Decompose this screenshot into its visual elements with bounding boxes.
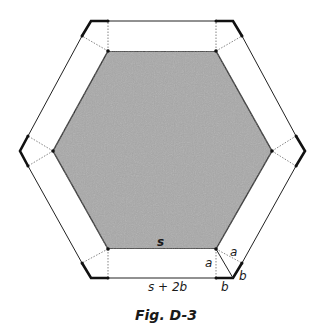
label-vertical-a: a: [205, 256, 212, 270]
label-inner-side: s: [157, 235, 164, 249]
hexagon-diagram: s s + 2b a a b b Fig. D-3: [0, 0, 323, 328]
figure-caption: Fig. D-3: [135, 307, 197, 323]
label-diagonal-a: a: [230, 245, 237, 259]
label-outer-side: s + 2b: [148, 280, 188, 294]
label-bottom-b: b: [221, 280, 229, 294]
label-side-b: b: [239, 269, 247, 283]
inner-hexagon: [53, 51, 272, 249]
